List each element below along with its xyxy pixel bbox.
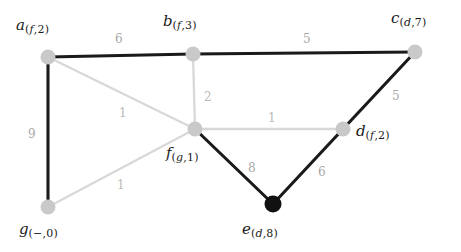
paren-close: ) bbox=[385, 129, 390, 142]
graph-edge bbox=[193, 54, 195, 129]
node-label-f: f(g,1) bbox=[166, 146, 199, 163]
node-sublabel-g: (−,0) bbox=[29, 227, 58, 240]
node-label-e: e(d,8) bbox=[242, 222, 278, 239]
node-sublabel-b: (f,3) bbox=[173, 19, 197, 32]
edge-weight-label: 9 bbox=[28, 128, 36, 140]
paren-close: ) bbox=[192, 19, 197, 32]
node-distance-a: 2 bbox=[37, 23, 44, 36]
edge-weight-label: 1 bbox=[117, 179, 125, 191]
edge-weight-label: 1 bbox=[119, 107, 127, 119]
paren-close: ) bbox=[422, 16, 427, 29]
graph-node-c bbox=[408, 45, 423, 60]
paren-close: ) bbox=[274, 227, 279, 240]
graph-node-g bbox=[41, 200, 56, 215]
edge-weight-label: 2 bbox=[204, 91, 212, 103]
graph-edge bbox=[48, 54, 193, 57]
node-sublabel-a: (f,2) bbox=[25, 23, 49, 36]
paren-close: ) bbox=[45, 23, 50, 36]
node-name-d: d bbox=[356, 122, 366, 140]
edge-weight-label: 5 bbox=[303, 33, 311, 45]
node-sublabel-d: (f,2) bbox=[366, 129, 390, 142]
paren-close: ) bbox=[194, 151, 199, 164]
node-label-c: c(d,7) bbox=[391, 11, 427, 28]
graph-edge bbox=[343, 52, 415, 129]
edge-weight-label: 5 bbox=[392, 90, 400, 102]
graph-node-e bbox=[265, 196, 282, 213]
node-name-g: g bbox=[19, 220, 29, 238]
graph-edge bbox=[48, 129, 195, 207]
node-name-e: e bbox=[242, 220, 251, 238]
node-label-a: a(f,2) bbox=[16, 18, 49, 35]
node-parent-e: d bbox=[255, 227, 262, 240]
node-parent-g: − bbox=[33, 227, 42, 240]
node-sublabel-c: (d,7) bbox=[399, 16, 426, 29]
node-distance-e: 8 bbox=[266, 227, 273, 240]
node-label-d: d(f,2) bbox=[356, 124, 390, 141]
edge-weight-label: 6 bbox=[115, 33, 123, 45]
edge-weight-label: 6 bbox=[318, 166, 326, 178]
graph-node-a bbox=[41, 50, 56, 65]
graph-canvas bbox=[0, 0, 461, 252]
graph-node-b bbox=[186, 47, 201, 62]
graph-node-f bbox=[188, 122, 203, 137]
node-sublabel-f: (g,1) bbox=[172, 151, 199, 164]
node-label-g: g(−,0) bbox=[19, 222, 58, 239]
graph-edge bbox=[273, 129, 343, 204]
paren-close: ) bbox=[53, 227, 58, 240]
graph-edge bbox=[193, 52, 415, 54]
edge-weight-label: 8 bbox=[248, 162, 256, 174]
edge-weight-label: 1 bbox=[268, 112, 276, 124]
graph-edge bbox=[195, 129, 273, 204]
node-name-b: b bbox=[163, 12, 173, 30]
node-label-b: b(f,3) bbox=[163, 14, 197, 31]
node-name-a: a bbox=[16, 16, 25, 34]
graph-node-d bbox=[336, 122, 351, 137]
graph-diagram: 6595861211 a(f,2)b(f,3)c(d,7)d(f,2)e(d,8… bbox=[0, 0, 461, 252]
node-distance-c: 7 bbox=[415, 16, 422, 29]
node-sublabel-e: (d,8) bbox=[251, 227, 278, 240]
